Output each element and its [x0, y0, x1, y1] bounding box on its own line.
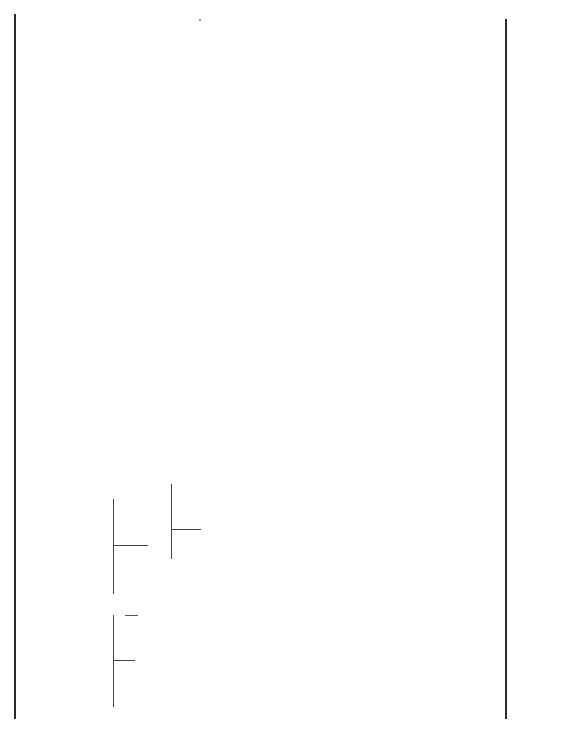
account-divider [113, 545, 148, 546]
page-border-left [14, 14, 16, 719]
account-header-line [113, 615, 114, 707]
speck [199, 19, 201, 21]
t-account-diagram [0, 0, 564, 749]
page-border-right [505, 19, 507, 719]
connector-stub [125, 615, 138, 616]
account-header-line [113, 499, 114, 594]
t-account-maintenance [113, 499, 153, 594]
t-account-power [113, 615, 143, 707]
account-divider [171, 529, 201, 530]
t-account-personnel [171, 484, 211, 559]
account-divider [113, 660, 135, 661]
account-header-line [171, 484, 172, 559]
